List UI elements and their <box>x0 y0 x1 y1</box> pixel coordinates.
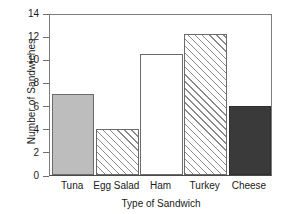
y-tick-label: 14 <box>0 9 39 19</box>
x-axis-title: Type of Sandwich <box>49 198 273 209</box>
y-tick-mark <box>43 37 49 38</box>
y-tick-mark <box>43 60 49 61</box>
y-tick-mark <box>43 129 49 130</box>
y-tick-label: 2 <box>0 148 39 158</box>
y-tick-label: 6 <box>0 102 39 112</box>
y-tick-label: 12 <box>0 32 39 42</box>
bar-egg-salad <box>96 129 139 175</box>
y-tick-mark <box>43 106 49 107</box>
x-tick-label-cheese: Cheese <box>204 180 288 191</box>
bar-cheese <box>229 106 272 175</box>
bar-ham <box>140 54 183 176</box>
y-tick-label: 10 <box>0 55 39 65</box>
y-tick-mark <box>43 83 49 84</box>
y-tick-mark <box>43 152 49 153</box>
bar-tuna <box>52 94 95 175</box>
y-tick-mark <box>43 176 49 177</box>
y-tick-label: 4 <box>0 125 39 135</box>
bar-chart: Number of Sandwiches 02468101214 TunaEgg… <box>0 0 288 214</box>
bar-turkey <box>184 34 227 175</box>
plot-area <box>49 14 272 176</box>
y-tick-label: 8 <box>0 78 39 88</box>
y-tick-mark <box>43 14 49 15</box>
